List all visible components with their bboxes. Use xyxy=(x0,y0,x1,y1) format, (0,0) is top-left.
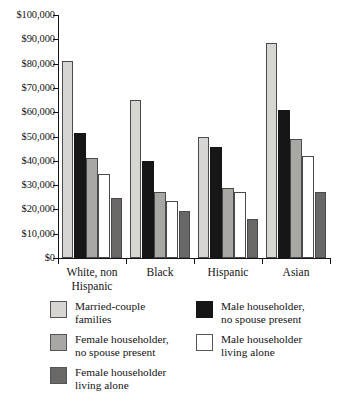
legend-item: Female householder, no spouse present xyxy=(50,333,169,358)
y-axis-tick-label: $60,000 xyxy=(22,107,55,117)
bar xyxy=(222,188,234,258)
bar xyxy=(266,43,278,258)
legend-label: Male householder living alone xyxy=(221,333,302,358)
bar xyxy=(302,156,314,258)
x-axis-tick xyxy=(194,258,195,264)
bar xyxy=(290,139,302,258)
y-axis-tick-label: $70,000 xyxy=(22,83,55,93)
bar xyxy=(154,192,166,258)
y-axis-tick-label: $90,000 xyxy=(22,34,55,44)
legend-label: Female householder living alone xyxy=(75,366,166,391)
y-axis-tick-label: $20,000 xyxy=(22,204,55,214)
y-axis-tick-label: $0 xyxy=(45,253,55,263)
bar xyxy=(166,201,178,258)
bar xyxy=(247,219,259,258)
bar xyxy=(210,147,222,258)
y-axis-tick-label: $100,000 xyxy=(16,10,55,20)
bar xyxy=(234,192,246,258)
x-axis-tick xyxy=(58,258,59,264)
chart-legend: Married-couple familiesFemale householde… xyxy=(0,298,340,398)
legend-swatch xyxy=(50,334,67,351)
x-axis-tick xyxy=(262,258,263,264)
bar xyxy=(130,100,142,258)
legend-label: Female householder, no spouse present xyxy=(75,333,169,358)
legend-swatch xyxy=(196,334,213,351)
bar xyxy=(111,198,123,258)
legend-label: Male householder, no spouse present xyxy=(221,300,305,325)
bar xyxy=(142,161,154,258)
y-axis-tick-label: $40,000 xyxy=(22,156,55,166)
y-axis-tick-label: $80,000 xyxy=(22,59,55,69)
legend-label: Married-couple families xyxy=(75,300,145,325)
x-axis-tick xyxy=(330,258,331,264)
legend-item: Married-couple families xyxy=(50,300,145,325)
bar xyxy=(179,211,191,258)
legend-item: Male householder, no spouse present xyxy=(196,300,305,325)
page-bleed-artifact xyxy=(0,400,340,411)
y-axis-tick-label: $30,000 xyxy=(22,180,55,190)
x-axis-group-label: Asian xyxy=(246,266,340,280)
bar xyxy=(278,110,290,258)
bar xyxy=(86,158,98,258)
y-axis-tick-label: $10,000 xyxy=(22,229,55,239)
bar xyxy=(98,174,110,258)
legend-swatch xyxy=(196,301,213,318)
legend-swatch xyxy=(50,367,67,384)
x-axis-tick xyxy=(126,258,127,264)
bar xyxy=(62,61,74,258)
legend-swatch xyxy=(50,301,67,318)
bar-chart: $100,000$90,000$80,000$70,000$60,000$50,… xyxy=(0,0,340,300)
bar xyxy=(315,192,327,258)
bar xyxy=(198,137,210,259)
bar xyxy=(74,133,86,258)
legend-item: Male householder living alone xyxy=(196,333,302,358)
legend-item: Female householder living alone xyxy=(50,366,166,391)
y-axis-tick-label: $50,000 xyxy=(22,132,55,142)
